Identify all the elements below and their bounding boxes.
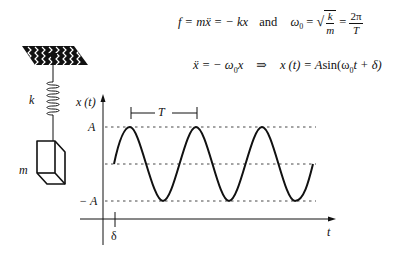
period-label: T <box>158 105 165 120</box>
equation-line-1: f = mẍ = − kx and ω0 = √km = 2πT <box>178 10 363 36</box>
spring-icon <box>47 58 59 141</box>
two-pi-over-T: 2πT <box>349 11 362 36</box>
sine-wave <box>114 127 313 201</box>
force-equation: f = mẍ = − kx <box>178 15 248 29</box>
equation-line-2: ẍ = − ω0x ⇒ x (t) = Asin(ω0t + δ) <box>193 57 382 75</box>
ode-lhs: ẍ = − ω <box>193 58 234 72</box>
and-text: and <box>259 15 277 29</box>
solution-lhs: x (t) = A <box>280 58 323 72</box>
frac-numerator: 2π <box>349 11 362 24</box>
mass-label: m <box>19 163 28 178</box>
solution-rest: t + δ) <box>353 58 381 72</box>
graph-axes <box>80 94 336 245</box>
sqrt-numerator: k <box>326 11 334 24</box>
equals-sign: = <box>306 15 313 29</box>
phase-label: δ <box>111 229 117 244</box>
ode-rhs: x <box>238 58 244 72</box>
x-axis-label: t <box>327 225 330 240</box>
implies-arrow: ⇒ <box>256 58 266 72</box>
y-axis-label: x (t) <box>76 95 96 110</box>
mass-block-icon <box>37 141 65 184</box>
oscillator-diagram <box>0 0 398 257</box>
sin-function: sin(ω <box>323 58 350 72</box>
spring-constant-label: k <box>29 93 34 108</box>
sqrt-k-over-m: √km <box>317 10 337 36</box>
ceiling-hatch-icon <box>22 46 88 65</box>
equals-sign-2: = <box>339 15 346 29</box>
omega-symbol: ω <box>290 15 299 29</box>
omega-subscript: 0 <box>299 22 303 31</box>
neg-amplitude-label: − A <box>79 194 97 209</box>
frac-denominator: T <box>349 24 362 36</box>
sqrt-denominator: m <box>326 24 334 36</box>
amplitude-label: A <box>88 120 95 135</box>
